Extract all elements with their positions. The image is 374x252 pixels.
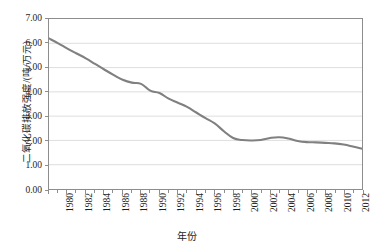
x-tick-mark — [149, 190, 150, 193]
x-tick-mark — [75, 190, 76, 193]
x-tick-label: 1990 — [158, 193, 168, 227]
x-tick-label: 2010 — [343, 193, 353, 227]
x-tick-mark — [48, 190, 49, 194]
x-axis-tick-labels: 1980198219841986198819901992199419961998… — [0, 0, 374, 252]
x-tick-label: 1988 — [139, 193, 149, 227]
x-tick-label: 1994 — [195, 193, 205, 227]
x-tick-label: 1980 — [65, 193, 75, 227]
x-tick-mark — [242, 190, 243, 193]
x-tick-label: 1986 — [121, 193, 131, 227]
x-axis-title: 年份 — [0, 228, 374, 243]
x-tick-label: 1998 — [232, 193, 242, 227]
x-tick-label: 2008 — [324, 193, 334, 227]
x-tick-label: 2012 — [361, 193, 371, 227]
x-tick-label: 1992 — [176, 193, 186, 227]
x-tick-mark — [279, 190, 280, 193]
x-tick-mark — [112, 190, 113, 193]
x-tick-label: 2000 — [250, 193, 260, 227]
co2-intensity-chart: 二氧化碳排放强度/(吨/万元) 0.001.002.003.004.005.00… — [0, 0, 374, 252]
x-tick-mark — [298, 190, 299, 193]
x-tick-label: 1982 — [84, 193, 94, 227]
x-tick-mark — [57, 190, 58, 193]
x-tick-label: 2006 — [306, 193, 316, 227]
x-tick-mark — [316, 190, 317, 193]
x-tick-mark — [261, 190, 262, 193]
x-tick-label: 1984 — [102, 193, 112, 227]
x-tick-mark — [224, 190, 225, 193]
x-tick-label: 1996 — [213, 193, 223, 227]
x-tick-mark — [335, 190, 336, 193]
x-tick-mark — [205, 190, 206, 193]
x-tick-mark — [168, 190, 169, 193]
x-tick-label: 2002 — [269, 193, 279, 227]
x-tick-mark — [131, 190, 132, 193]
x-tick-mark — [186, 190, 187, 193]
x-tick-label: 2004 — [287, 193, 297, 227]
x-tick-mark — [353, 190, 354, 193]
